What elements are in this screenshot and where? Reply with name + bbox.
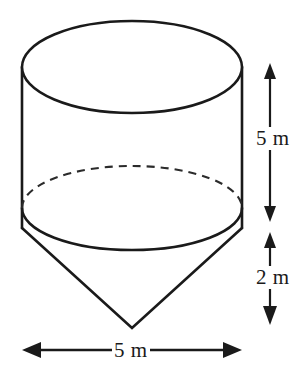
cylinder-top-ellipse: [22, 21, 242, 113]
geometry-figure: 5 m 2 m 5 m: [0, 0, 307, 378]
dimension-label-diameter: 5 m: [112, 339, 150, 362]
dimension-label-cone-height: 2 m: [254, 266, 292, 289]
cylinder-bottom-hidden-arc: [22, 166, 242, 208]
dimension-label-cylinder-height: 5 m: [254, 127, 292, 150]
arrow-up-icon-cone-top: [264, 232, 276, 248]
arrow-up-icon-cylinder-top: [264, 63, 276, 79]
arrow-down-icon-cone-bottom: [263, 306, 277, 325]
arrow-right-icon-diameter: [223, 342, 242, 358]
figure-canvas: [0, 0, 307, 378]
arrow-down-icon-cylinder-bottom: [264, 206, 276, 222]
arrow-left-icon-diameter: [22, 342, 41, 358]
cone-bottom: [22, 228, 242, 328]
